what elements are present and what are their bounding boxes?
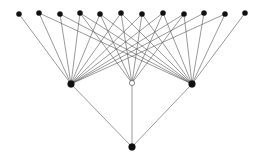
graph-node[interactable] bbox=[129, 80, 134, 85]
graph-node[interactable] bbox=[118, 10, 123, 15]
diagram-canvas bbox=[0, 0, 260, 161]
graph-node[interactable] bbox=[16, 11, 21, 16]
graph-node[interactable] bbox=[129, 144, 136, 151]
graph-node[interactable] bbox=[97, 11, 102, 16]
graph-node[interactable] bbox=[160, 10, 165, 15]
graph-node[interactable] bbox=[77, 10, 82, 15]
graph-node[interactable] bbox=[181, 11, 186, 16]
graph-node[interactable] bbox=[139, 11, 144, 16]
graph-node[interactable] bbox=[222, 11, 227, 16]
graph-node[interactable] bbox=[189, 81, 196, 88]
graph-node[interactable] bbox=[57, 11, 62, 16]
node-link-graph bbox=[0, 0, 260, 161]
graph-node[interactable] bbox=[68, 81, 75, 88]
graph-node[interactable] bbox=[201, 10, 206, 15]
graph-node[interactable] bbox=[36, 10, 41, 15]
graph-node[interactable] bbox=[242, 10, 247, 15]
